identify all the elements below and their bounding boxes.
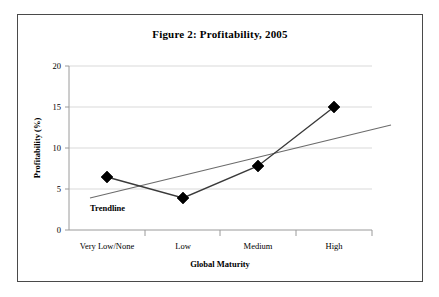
x-tick-label-very-low-none: Very Low/None	[80, 241, 135, 251]
chart-plot-area: 20 15 10 5 0 Profitability (%) Very Low/…	[18, 15, 422, 281]
y-tick-label-10: 10	[53, 143, 62, 153]
profitability-series-line	[107, 107, 334, 198]
x-tick-label-low: Low	[175, 241, 191, 251]
y-tick-label-15: 15	[53, 102, 62, 112]
data-marker-very-low-none	[101, 171, 113, 183]
data-marker-medium	[252, 160, 264, 172]
y-tick-label-5: 5	[57, 184, 61, 194]
y-axis-ticks	[65, 66, 69, 230]
y-tick-label-20: 20	[53, 61, 62, 71]
x-tick-label-high: High	[326, 241, 344, 251]
gridlines	[69, 66, 372, 189]
y-tick-label-0: 0	[57, 225, 61, 235]
figure-frame: Figure 2: Profitability, 2005 2	[17, 14, 423, 282]
x-tick-label-medium: Medium	[244, 241, 273, 251]
trendline-annotation: Trendline	[90, 203, 125, 213]
data-marker-high	[328, 101, 340, 113]
x-axis-title: Global Maturity	[190, 259, 250, 269]
x-axis-ticks	[145, 230, 372, 236]
data-marker-low	[177, 192, 189, 204]
trendline-series	[90, 125, 391, 198]
y-axis-title: Profitability (%)	[32, 118, 42, 179]
